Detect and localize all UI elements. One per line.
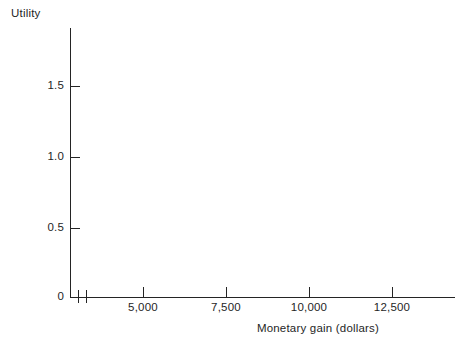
chart-figure: Utility 1.5 1.0 0.5 0 5,000 7,500 10,000… bbox=[0, 0, 468, 347]
plot-area bbox=[71, 28, 455, 296]
x-tick-mark bbox=[226, 287, 227, 297]
y-tick-label-wrap: 0.5 bbox=[0, 221, 64, 235]
y-tick-mark bbox=[71, 228, 80, 229]
x-tick-label: 7,500 bbox=[211, 301, 241, 313]
y-tick-label: 0.5 bbox=[47, 221, 64, 233]
y-tick-label: 1.5 bbox=[47, 79, 64, 91]
y-tick-label-wrap: 1.0 bbox=[0, 150, 64, 164]
x-axis-break-mark bbox=[86, 290, 87, 303]
y-axis-title: Utility bbox=[11, 7, 41, 19]
x-axis-break-mark bbox=[78, 290, 79, 303]
y-tick-label-wrap: 0 bbox=[0, 290, 64, 304]
y-tick-label-wrap: 1.5 bbox=[0, 79, 64, 93]
x-tick-label: 5,000 bbox=[128, 301, 158, 313]
y-tick-mark bbox=[71, 86, 80, 87]
x-tick-label: 12,500 bbox=[374, 301, 410, 313]
x-axis-line bbox=[70, 297, 455, 298]
x-tick-mark bbox=[309, 287, 310, 297]
x-tick-mark bbox=[392, 287, 393, 297]
y-tick-label: 0 bbox=[57, 290, 64, 302]
x-axis-title: Monetary gain (dollars) bbox=[257, 322, 379, 334]
y-tick-mark bbox=[71, 157, 80, 158]
x-tick-mark bbox=[143, 287, 144, 297]
x-tick-label: 10,000 bbox=[291, 301, 327, 313]
y-tick-label: 1.0 bbox=[47, 150, 64, 162]
